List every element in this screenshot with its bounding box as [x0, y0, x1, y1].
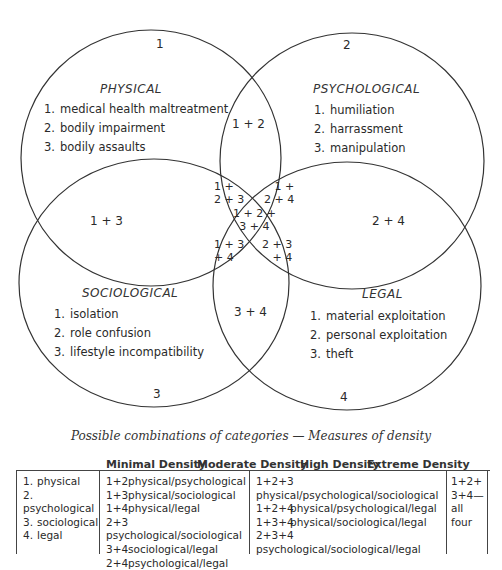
- list-item: 2.role confusion: [54, 324, 204, 343]
- table-row: 1+2+4physical/psychological/legal: [256, 502, 446, 516]
- list-item: 3.lifestyle incompatibility: [54, 343, 204, 362]
- legal-list: 1.material exploitation 2.personal explo…: [310, 307, 447, 364]
- list-item: 1.medical health maltreatment: [44, 100, 228, 119]
- circle-psychological: [220, 33, 484, 289]
- overlap-1-2-4: 1 +2 + 4: [264, 180, 294, 206]
- density-table: 1.physical 2.psychological 3.sociologica…: [16, 470, 490, 554]
- overlap-3-4: 3 + 4: [234, 305, 267, 319]
- list-item: 3.manipulation: [314, 139, 406, 158]
- table-row: 3.sociological: [23, 516, 105, 530]
- diagram-caption: Possible combinations of categories — Me…: [0, 429, 502, 443]
- table-row: 1.physical: [23, 475, 105, 489]
- table-row: 4.legal: [23, 529, 105, 543]
- list-item: 3.bodily assaults: [44, 138, 228, 157]
- physical-list: 1.medical health maltreatment 2.bodily i…: [44, 100, 228, 157]
- circle-3-number: 3: [153, 387, 161, 401]
- sociological-list: 1.isolation 2.role confusion 3.lifestyle…: [54, 305, 204, 362]
- table-row: 2+3psychological/sociological: [106, 516, 251, 543]
- overlap-1-3-4: 1 + 3+ 4: [214, 238, 244, 264]
- table-row: 2.psychological: [23, 489, 105, 516]
- table-row: 1+2+3physical/psychological/sociological: [256, 475, 446, 502]
- table-row: 3+4—: [451, 489, 487, 503]
- column-extreme: 1+2+ 3+4— all four: [446, 471, 488, 554]
- overlap-1-2-3-4: 1 + 2 +3 + 4: [233, 207, 276, 233]
- table-row: 1+3+4physical/sociological/legal: [256, 516, 446, 530]
- list-item: 3.theft: [310, 345, 447, 364]
- list-item: 2.bodily impairment: [44, 119, 228, 138]
- legal-title: LEGAL: [362, 287, 403, 301]
- table-row: 1+4physical/legal: [106, 502, 251, 516]
- overlap-1-3: 1 + 3: [90, 214, 123, 228]
- table-row: all: [451, 502, 487, 516]
- overlap-2-4: 2 + 4: [372, 214, 405, 228]
- overlap-1-2: 1 + 2: [232, 117, 265, 131]
- column-categories: 1.physical 2.psychological 3.sociologica…: [16, 471, 105, 554]
- table-row: 2+3+4psychological/sociological/legal: [256, 529, 446, 556]
- list-item: 2.personal exploitation: [310, 326, 447, 345]
- table-row: 1+2+: [451, 475, 487, 489]
- table-row: 1+2physical/psychological: [106, 475, 251, 489]
- column-high: 1+2+3physical/psychological/sociological…: [249, 471, 446, 554]
- psychological-title: PSYCHOLOGICAL: [313, 82, 420, 96]
- table-row: 2+4psychological/legal: [106, 557, 251, 570]
- overlap-1-2-3: 1 +2 + 3: [214, 180, 244, 206]
- list-item: 2.harrassment: [314, 120, 406, 139]
- physical-title: PHYSICAL: [100, 82, 162, 96]
- sociological-title: SOCIOLOGICAL: [82, 286, 178, 300]
- column-moderate: 1+2physical/psychological 1+3physical/so…: [99, 471, 251, 554]
- circle-4-number: 4: [340, 390, 348, 404]
- circle-1-number: 1: [156, 37, 164, 51]
- circle-2-number: 2: [343, 38, 351, 52]
- list-item: 1.humiliation: [314, 101, 406, 120]
- psychological-list: 1.humiliation 2.harrassment 3.manipulati…: [314, 101, 406, 158]
- table-row: four: [451, 516, 487, 530]
- list-item: 1.isolation: [54, 305, 204, 324]
- list-item: 1.material exploitation: [310, 307, 447, 326]
- table-row: 3+4sociological/legal: [106, 543, 251, 557]
- overlap-2-3-4: 2 + 3+ 4: [262, 238, 292, 264]
- table-row: 1+3physical/sociological: [106, 489, 251, 503]
